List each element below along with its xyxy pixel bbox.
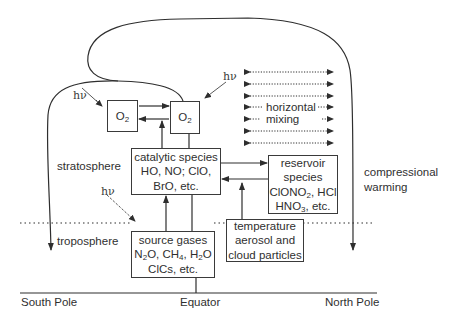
photon-label-left: hν — [73, 89, 87, 102]
o2-box-left: O2 — [107, 100, 138, 132]
troposphere-label: troposphere — [57, 234, 118, 248]
catalytic-species-box: catalytic species HO, NO; ClO, BrO, etc. — [131, 148, 221, 195]
source-gases-box: source gases N2O, CH4, H2O ClCs, etc. — [131, 231, 215, 278]
south-pole-label: South Pole — [21, 295, 77, 309]
photon-label-lower: hν — [101, 185, 115, 198]
horizontal-mixing-label-2: mixing — [266, 112, 299, 126]
equator-label: Equator — [180, 295, 220, 309]
photon-label-right: hν — [223, 70, 237, 83]
stratosphere-label: stratosphere — [57, 159, 121, 173]
compressional-warming-label-2: warming — [364, 180, 407, 194]
temperature-aerosol-box: temperature aerosol and cloud particles — [226, 219, 304, 262]
circulation-loop-upper — [88, 18, 353, 250]
north-pole-label: North Pole — [325, 295, 379, 309]
reservoir-species-box: reservoir species ClONO2, HCl HNO3, etc. — [268, 155, 338, 214]
compressional-warming-label-1: compressional — [364, 165, 438, 179]
o2-box-right: O2 — [170, 101, 200, 134]
